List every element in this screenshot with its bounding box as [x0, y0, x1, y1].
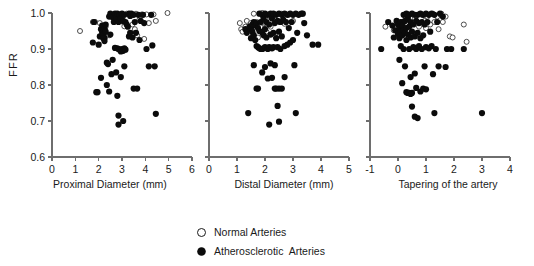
plot-area-proximal: 0.60.70.80.91.00123456	[0, 0, 200, 200]
data-point-atherosclerotic	[431, 110, 437, 116]
y-tick-label: 0.7	[30, 115, 45, 127]
x-tick-label: -1	[365, 163, 374, 175]
data-point-normal	[461, 22, 466, 27]
panel-distal-diameter: 012345 Distal Diameter (mm)	[199, 0, 369, 200]
filled-circle-icon	[194, 246, 208, 257]
x-tick-label: 2	[451, 163, 457, 175]
y-tick-label: 0.8	[30, 79, 45, 91]
data-point-atherosclerotic	[430, 71, 436, 77]
data-point-atherosclerotic	[149, 42, 155, 48]
data-point-atherosclerotic	[259, 69, 265, 75]
data-point-atherosclerotic	[110, 57, 116, 63]
data-point-normal	[464, 39, 469, 44]
data-point-atherosclerotic	[422, 63, 428, 69]
data-point-atherosclerotic	[301, 20, 307, 26]
data-point-atherosclerotic	[291, 62, 297, 68]
x-tick-label: 6	[189, 163, 195, 175]
data-point-normal	[436, 27, 441, 32]
data-point-atherosclerotic	[424, 19, 430, 25]
x-tick-label: 1	[234, 163, 240, 175]
data-point-atherosclerotic	[104, 82, 110, 88]
data-point-atherosclerotic	[269, 75, 275, 81]
data-point-atherosclerotic	[276, 119, 282, 125]
y-tick-label: 0.9	[30, 43, 45, 55]
data-point-atherosclerotic	[94, 89, 100, 95]
data-point-atherosclerotic	[396, 57, 402, 63]
data-point-atherosclerotic	[270, 30, 276, 36]
data-point-normal	[237, 21, 242, 26]
data-point-atherosclerotic	[434, 19, 440, 25]
data-point-atherosclerotic	[443, 64, 449, 70]
data-point-normal	[440, 20, 445, 25]
x-tick-label: 0	[49, 163, 55, 175]
data-point-atherosclerotic	[148, 12, 154, 18]
data-point-atherosclerotic	[136, 37, 142, 43]
x-tick-label: 5	[346, 163, 352, 175]
data-point-atherosclerotic	[90, 39, 96, 45]
data-point-atherosclerotic	[431, 12, 437, 18]
data-point-atherosclerotic	[310, 42, 316, 48]
data-point-atherosclerotic	[279, 33, 285, 39]
legend-item-normal: Normal Arteries	[194, 224, 325, 240]
data-point-atherosclerotic	[409, 90, 415, 96]
data-point-atherosclerotic	[118, 74, 124, 80]
legend-item-atherosclerotic: Atherosclerotic Arteries	[194, 243, 325, 259]
data-point-atherosclerotic	[96, 42, 102, 48]
data-point-atherosclerotic	[304, 32, 310, 38]
data-point-atherosclerotic	[293, 110, 299, 116]
data-point-atherosclerotic	[98, 75, 104, 81]
data-point-normal	[78, 29, 83, 34]
x-tick-label: 4	[318, 163, 324, 175]
legend-label-atherosclerotic: Atherosclerotic Arteries	[214, 245, 325, 257]
data-point-atherosclerotic	[125, 24, 131, 30]
data-point-atherosclerotic	[279, 86, 285, 92]
plot-area-tapering: -101234	[360, 0, 534, 200]
data-point-atherosclerotic	[300, 11, 306, 17]
data-point-atherosclerotic	[134, 86, 140, 92]
data-point-atherosclerotic	[315, 42, 321, 48]
data-point-normal	[383, 24, 388, 29]
data-point-atherosclerotic	[275, 103, 281, 109]
panel-proximal-diameter: 0.60.70.80.91.00123456 Proximal Diameter…	[0, 0, 200, 200]
x-tick-label: 3	[119, 163, 125, 175]
data-point-atherosclerotic	[283, 19, 289, 25]
data-point-atherosclerotic	[153, 111, 159, 117]
data-point-atherosclerotic	[415, 30, 421, 36]
data-point-atherosclerotic	[152, 63, 158, 69]
data-point-atherosclerotic	[427, 29, 433, 35]
x-axis-title-proximal: Proximal Diameter (mm)	[30, 178, 190, 190]
x-tick-label: 5	[166, 163, 172, 175]
data-point-atherosclerotic	[251, 62, 257, 68]
x-tick-label: 4	[507, 163, 513, 175]
data-point-normal	[450, 35, 455, 40]
data-point-atherosclerotic	[91, 19, 97, 25]
data-point-atherosclerotic	[252, 37, 258, 43]
data-point-atherosclerotic	[115, 113, 121, 119]
data-point-normal	[251, 11, 256, 16]
data-point-atherosclerotic	[378, 46, 384, 52]
data-point-atherosclerotic	[114, 93, 120, 99]
data-point-atherosclerotic	[255, 86, 261, 92]
data-point-atherosclerotic	[433, 46, 439, 52]
x-axis-title-tapering: Tapering of the artery	[368, 178, 528, 190]
data-point-atherosclerotic	[440, 14, 446, 20]
data-point-atherosclerotic	[107, 31, 113, 37]
x-tick-label: 1	[423, 163, 429, 175]
data-point-normal	[165, 11, 170, 16]
data-point-atherosclerotic	[409, 104, 415, 110]
data-point-atherosclerotic	[262, 26, 268, 32]
x-tick-label: 0	[395, 163, 401, 175]
x-tick-label: 2	[262, 163, 268, 175]
x-tick-label: 1	[72, 163, 78, 175]
data-point-atherosclerotic	[141, 20, 147, 26]
open-circle-icon	[194, 227, 208, 238]
data-point-atherosclerotic	[266, 122, 272, 128]
panel-tapering: -101234 Tapering of the artery	[360, 0, 534, 200]
data-point-atherosclerotic	[282, 74, 288, 80]
data-point-atherosclerotic	[146, 63, 152, 69]
data-point-atherosclerotic	[105, 61, 111, 67]
x-tick-label: 0	[206, 163, 212, 175]
data-point-atherosclerotic	[286, 25, 292, 31]
data-point-atherosclerotic	[436, 63, 442, 69]
x-tick-label: 4	[142, 163, 148, 175]
